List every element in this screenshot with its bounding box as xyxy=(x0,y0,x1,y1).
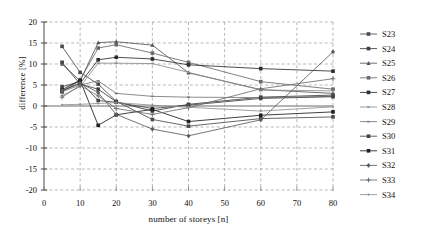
line-chart-canvas: -20-15-10-50510152001020304050607080 S23… xyxy=(0,0,430,245)
chart-figure: -20-15-10-50510152001020304050607080 S23… xyxy=(0,0,430,245)
tick-labels: -20-15-10-50510152001020304050607080 xyxy=(26,17,338,208)
legend-label: S27 xyxy=(382,87,395,97)
y-tick-label: -10 xyxy=(26,143,37,153)
legend-label: S32 xyxy=(382,160,395,170)
chart-legend: S23S24S25S26S27S28S29S30S31S32S33S34 xyxy=(360,29,396,200)
y-tick-label: 5 xyxy=(33,80,37,90)
legend-item-s27[interactable]: S27 xyxy=(360,87,395,97)
legend-item-s23[interactable]: S23 xyxy=(360,29,395,39)
legend-label: S28 xyxy=(382,102,395,112)
legend-item-s28[interactable]: S28 xyxy=(360,102,395,112)
y-tick-label: -5 xyxy=(30,122,37,132)
legend-label: S33 xyxy=(382,175,395,185)
x-axis-title: number of storeys [n] xyxy=(44,214,333,224)
x-tick-label: 0 xyxy=(42,198,46,208)
legend-item-s26[interactable]: S26 xyxy=(360,73,395,83)
legend-item-s33[interactable]: S33 xyxy=(360,175,395,185)
legend-label: S31 xyxy=(382,146,395,156)
legend-label: S30 xyxy=(382,131,395,141)
x-tick-label: 70 xyxy=(293,198,302,208)
data-series-s23 xyxy=(60,45,335,128)
y-tick-label: 20 xyxy=(29,17,38,27)
legend-label: S24 xyxy=(382,44,396,54)
y-tick-label: 15 xyxy=(29,38,38,48)
legend-item-s25[interactable]: S25 xyxy=(360,58,395,68)
x-tick-label: 30 xyxy=(148,198,157,208)
y-tick-label: -20 xyxy=(26,185,37,195)
x-tick-label: 50 xyxy=(220,198,229,208)
data-series-layer xyxy=(60,40,336,139)
legend-label: S26 xyxy=(382,73,395,83)
data-series-s26 xyxy=(60,43,335,94)
legend-label: S25 xyxy=(382,58,395,68)
y-tick-label: 10 xyxy=(29,59,38,69)
x-tick-label: 40 xyxy=(184,198,193,208)
legend-item-s29[interactable]: S29 xyxy=(360,117,395,127)
legend-label: S29 xyxy=(382,117,395,127)
y-tick-label: 0 xyxy=(33,101,37,111)
x-tick-label: 60 xyxy=(257,198,266,208)
data-series-s31 xyxy=(60,79,335,128)
legend-label: S23 xyxy=(382,29,395,39)
y-axis-title: difference [%] xyxy=(17,23,27,143)
legend-item-s31[interactable]: S31 xyxy=(360,146,395,156)
x-tick-label: 20 xyxy=(112,198,121,208)
x-tick-label: 10 xyxy=(76,198,85,208)
legend-item-s24[interactable]: S24 xyxy=(360,44,396,54)
legend-item-s32[interactable]: S32 xyxy=(360,160,395,170)
legend-item-s34[interactable]: S34 xyxy=(360,190,396,200)
legend-item-s30[interactable]: S30 xyxy=(360,131,395,141)
x-tick-label: 80 xyxy=(329,198,338,208)
y-tick-label: -15 xyxy=(26,164,37,174)
legend-label: S34 xyxy=(382,190,396,200)
